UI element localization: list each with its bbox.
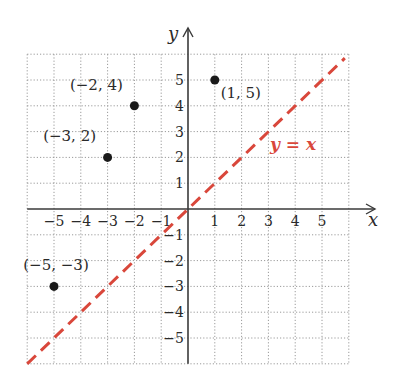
y-tick-label: −5 (163, 330, 184, 346)
line-equation-label: y = x (269, 134, 317, 154)
x-tick-label: 1 (210, 213, 219, 229)
x-tick-label: 2 (237, 213, 246, 229)
y-tick-label: 1 (175, 175, 184, 191)
data-point (103, 153, 112, 162)
plot-svg: −5−4−3−2−112345−5−4−3−2−112345 (−2, 4)(−… (0, 0, 397, 388)
y-tick-label: −4 (163, 304, 184, 320)
data-point (210, 76, 219, 85)
y-tick-label: 2 (175, 149, 184, 165)
point-label: (−2, 4) (70, 76, 123, 94)
data-points: (−2, 4)(−3, 2)(1, 5)(−5, −3) (23, 76, 261, 291)
x-axis-label: x (368, 209, 378, 230)
reference-lines (27, 58, 345, 364)
point-label: (−3, 2) (43, 127, 96, 145)
x-tick-label: −3 (97, 213, 118, 229)
y-tick-label: 3 (175, 124, 184, 140)
y-tick-label: 5 (175, 72, 184, 88)
y-tick-label: 4 (175, 98, 184, 114)
y-axis-label: y (167, 23, 179, 44)
x-tick-label: 5 (318, 213, 327, 229)
x-tick-label: −2 (124, 213, 145, 229)
x-tick-label: −5 (44, 213, 65, 229)
data-point (50, 282, 59, 291)
point-label: (−5, −3) (23, 256, 88, 274)
y-tick-label: −2 (163, 253, 184, 269)
x-tick-label: 4 (291, 213, 300, 229)
line-y-equals-x (27, 58, 345, 364)
data-point (130, 101, 139, 110)
point-label: (1, 5) (221, 84, 261, 102)
x-tick-label: 3 (264, 213, 273, 229)
y-tick-label: −3 (163, 278, 184, 294)
coordinate-plane: −5−4−3−2−112345−5−4−3−2−112345 (−2, 4)(−… (0, 0, 397, 388)
x-tick-label: −4 (70, 213, 91, 229)
